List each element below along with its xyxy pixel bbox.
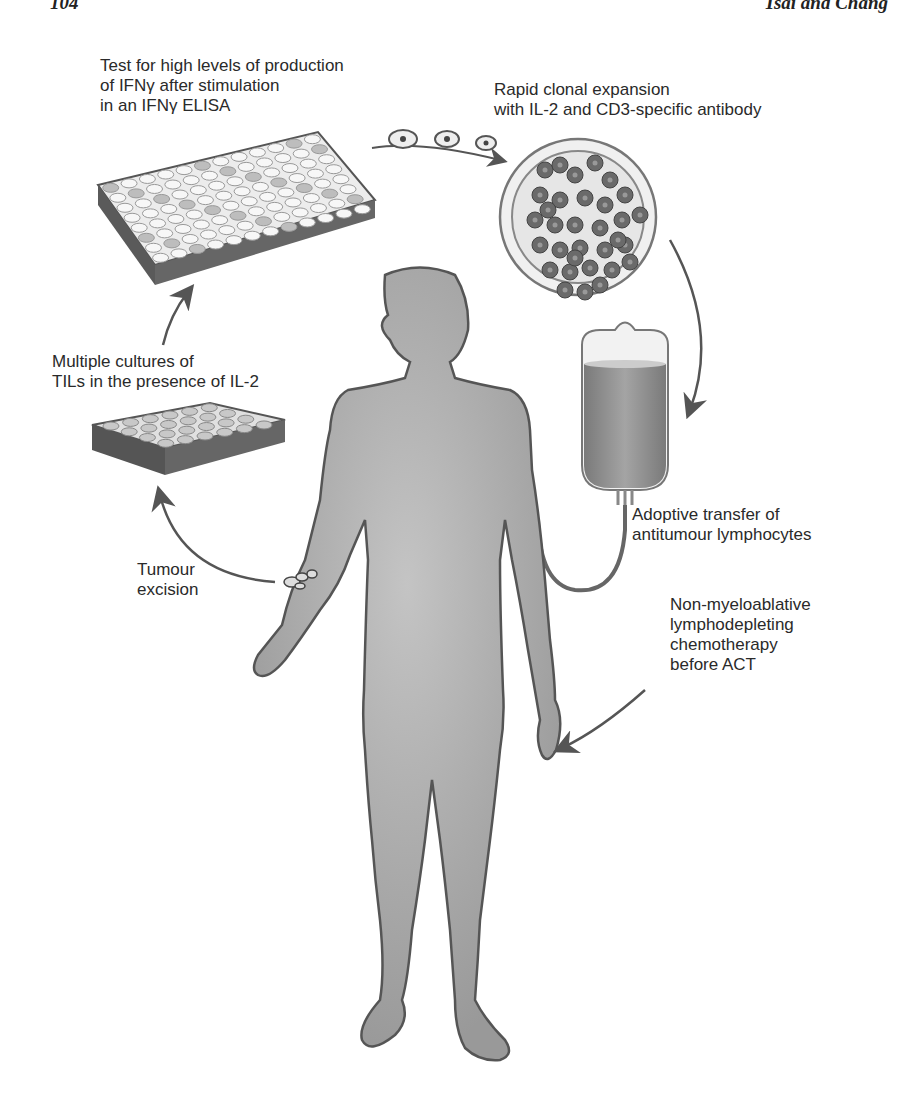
cell-chain-icon bbox=[372, 130, 500, 160]
label-clonal-expansion: Rapid clonal expansion with IL-2 and CD3… bbox=[494, 80, 761, 120]
label-elisa-test: Test for high levels of production of IF… bbox=[100, 56, 344, 116]
label-lymphodepletion: Non-myeloablative lymphodepleting chemot… bbox=[670, 595, 811, 675]
dish-to-bag-arrow bbox=[670, 240, 701, 410]
chemo-arrow bbox=[562, 690, 645, 748]
petri-dish-icon bbox=[500, 139, 656, 300]
culture-to-elisa-arrow bbox=[163, 292, 188, 345]
label-multiple-cultures: Multiple cultures of TILs in the presenc… bbox=[52, 352, 259, 392]
culture-plate-icon bbox=[92, 403, 285, 475]
label-tumour-excision: Tumour excision bbox=[137, 560, 198, 600]
act-figure bbox=[0, 0, 902, 1106]
elisa-plate-icon bbox=[98, 132, 375, 285]
label-adoptive-transfer: Adoptive transfer of antitumour lymphocy… bbox=[632, 505, 812, 545]
iv-bag-icon bbox=[538, 323, 668, 591]
patient-body-icon bbox=[254, 268, 560, 1061]
